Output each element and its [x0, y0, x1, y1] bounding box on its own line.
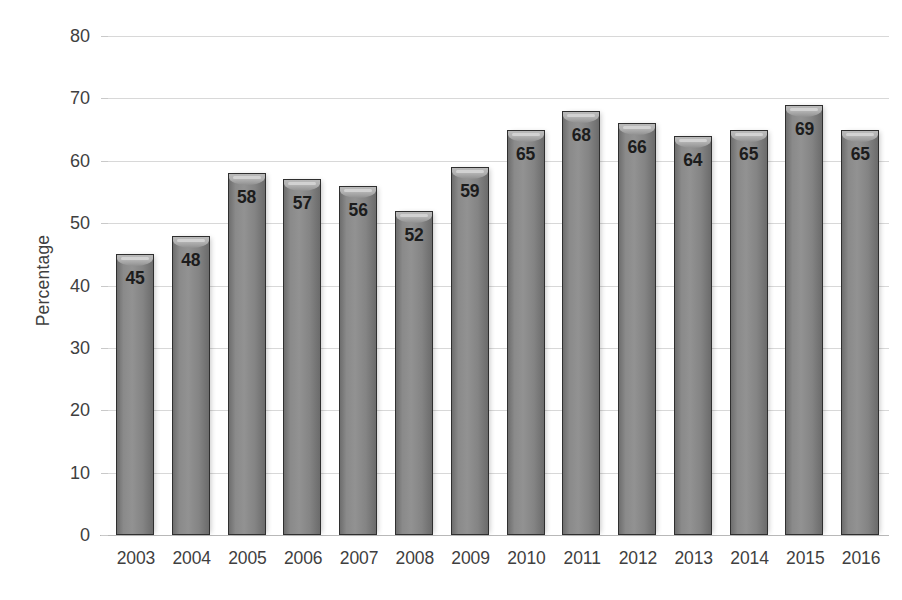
bar-slot: 65 [833, 36, 889, 535]
bar-value-label: 57 [284, 193, 320, 214]
bar[interactable]: 52 [395, 211, 433, 535]
bar-slot: 58 [220, 36, 276, 535]
y-axis-tick [101, 36, 108, 37]
bar-value-label: 66 [619, 137, 655, 158]
bar-top-bevel [786, 106, 822, 117]
bar-slot: 48 [164, 36, 220, 535]
bar-top-bevel [396, 212, 432, 223]
bar[interactable]: 59 [451, 167, 489, 535]
bar-top-bevel [842, 131, 878, 142]
bar-value-label: 65 [508, 144, 544, 165]
bar-slot: 68 [554, 36, 610, 535]
x-axis-tick-label: 2016 [833, 548, 889, 569]
bar-slot: 45 [108, 36, 164, 535]
bar-value-label: 56 [340, 200, 376, 221]
bar-value-label: 45 [117, 268, 153, 289]
bar-slot: 59 [443, 36, 499, 535]
y-axis-title-label: Percentage [34, 234, 55, 326]
bar[interactable]: 65 [507, 130, 545, 535]
bar[interactable]: 65 [730, 130, 768, 535]
y-axis-tick [101, 473, 108, 474]
bar[interactable]: 58 [228, 173, 266, 535]
bar-value-label: 52 [396, 225, 432, 246]
x-axis-tick-label: 2014 [722, 548, 778, 569]
x-axis-tick-label: 2013 [666, 548, 722, 569]
bar-top-bevel [173, 237, 209, 248]
x-axis-tick-label: 2003 [108, 548, 164, 569]
bar-value-label: 59 [452, 181, 488, 202]
bars: 4548585756525965686664656965 [108, 36, 889, 535]
bar[interactable]: 65 [841, 130, 879, 535]
y-axis-title: Percentage [14, 0, 74, 560]
bar-top-bevel [675, 137, 711, 148]
x-axis-tick-label: 2009 [443, 548, 499, 569]
bar-top-bevel [619, 124, 655, 135]
bar-top-bevel [117, 255, 153, 266]
plot-area: 80706050403020100 4548585756525965686664… [108, 36, 889, 535]
y-axis-tick-label: 0 [80, 525, 90, 546]
x-axis-tick-label: 2015 [777, 548, 833, 569]
x-axis-tick-label: 2010 [499, 548, 555, 569]
x-axis-tick-label: 2011 [554, 548, 610, 569]
x-axis-tick-label: 2004 [164, 548, 220, 569]
x-axis-labels: 2003200420052006200720082009201020112012… [108, 548, 889, 578]
bar-value-label: 65 [842, 144, 878, 165]
bar-slot: 66 [610, 36, 666, 535]
bar-value-label: 48 [173, 250, 209, 271]
bar-top-bevel [229, 174, 265, 185]
bar-chart: Percentage 80706050403020100 45485857565… [0, 0, 902, 600]
y-axis-tick-label: 60 [70, 150, 90, 171]
y-axis-tick [101, 161, 108, 162]
bar-top-bevel [731, 131, 767, 142]
bar-slot: 69 [777, 36, 833, 535]
y-axis-tick-label: 30 [70, 337, 90, 358]
y-axis-tick-label: 20 [70, 400, 90, 421]
bar-slot: 56 [331, 36, 387, 535]
bar-value-label: 68 [563, 125, 599, 146]
y-axis-tick-label: 80 [70, 26, 90, 47]
y-axis-tick-label: 70 [70, 88, 90, 109]
bar-top-bevel [340, 187, 376, 198]
x-axis-tick-label: 2007 [331, 548, 387, 569]
y-axis-tick-label: 10 [70, 462, 90, 483]
bar[interactable]: 48 [172, 236, 210, 535]
x-axis-tick-label: 2006 [275, 548, 331, 569]
x-axis-tick-label: 2005 [220, 548, 276, 569]
y-axis-tick [101, 286, 108, 287]
bar-value-label: 65 [731, 144, 767, 165]
y-axis-tick [101, 410, 108, 411]
x-axis-tick-label: 2012 [610, 548, 666, 569]
bar-slot: 57 [275, 36, 331, 535]
bar[interactable]: 68 [562, 111, 600, 535]
bar-slot: 52 [387, 36, 443, 535]
bar[interactable]: 57 [283, 179, 321, 535]
y-axis-tick [101, 535, 108, 536]
bar-value-label: 64 [675, 150, 711, 171]
bar-value-label: 69 [786, 119, 822, 140]
bar[interactable]: 45 [116, 254, 154, 535]
bar-slot: 64 [666, 36, 722, 535]
y-axis-tick-label: 40 [70, 275, 90, 296]
bar-top-bevel [508, 131, 544, 142]
bar-top-bevel [284, 180, 320, 191]
bar[interactable]: 56 [339, 186, 377, 535]
y-axis-tick [101, 223, 108, 224]
bar-slot: 65 [722, 36, 778, 535]
y-axis-tick-label: 50 [70, 213, 90, 234]
bar[interactable]: 66 [618, 123, 656, 535]
bar[interactable]: 64 [674, 136, 712, 535]
x-axis-tick-label: 2008 [387, 548, 443, 569]
y-axis-tick [101, 348, 108, 349]
bar-value-label: 58 [229, 187, 265, 208]
bar-top-bevel [563, 112, 599, 123]
bar-top-bevel [452, 168, 488, 179]
axis-baseline [100, 535, 889, 536]
bar[interactable]: 69 [785, 105, 823, 535]
y-axis-tick [101, 98, 108, 99]
bar-slot: 65 [499, 36, 555, 535]
